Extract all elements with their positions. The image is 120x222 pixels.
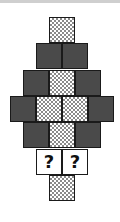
row4-dark-block-2: [88, 96, 114, 122]
row6-unknown-block-2: ?: [62, 149, 88, 175]
row1-checker-block: [49, 17, 75, 43]
row3-checker-block: [49, 70, 75, 96]
row5-dark-block-2: [75, 122, 101, 148]
row6-unknown-block-1: ?: [36, 149, 62, 175]
row4-checker-block-2: [62, 96, 88, 122]
row7-checker-block: [49, 175, 75, 201]
row2-dark-block-2: [62, 43, 88, 69]
row5-dark-block-1: [23, 122, 49, 148]
row3-dark-block-1: [23, 70, 49, 96]
row3-dark-block-2: [75, 70, 101, 96]
row4-dark-block-1: [10, 96, 36, 122]
row5-checker-block: [49, 122, 75, 148]
top-border-strip: [0, 0, 120, 3]
row4-checker-block-1: [36, 96, 62, 122]
row2-dark-block-1: [36, 43, 62, 69]
